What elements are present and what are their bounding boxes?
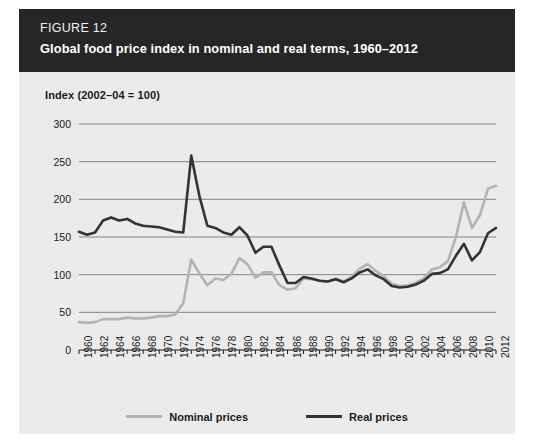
figure-number: FIGURE 12 bbox=[40, 20, 515, 37]
y-axis-tick-label: 100 bbox=[41, 269, 71, 281]
x-axis-tick-label: 2002 bbox=[420, 336, 431, 358]
legend-item: Nominal prices bbox=[126, 411, 248, 423]
x-axis-tick-label: 2012 bbox=[500, 336, 511, 358]
x-axis-tick-label: 2008 bbox=[468, 336, 479, 358]
x-axis-tick-label: 1972 bbox=[179, 336, 190, 358]
x-axis-tick-label: 1982 bbox=[259, 336, 270, 358]
chart-legend: Nominal pricesReal prices bbox=[19, 399, 515, 434]
x-axis-tick-label: 1974 bbox=[195, 336, 206, 358]
x-axis-tick-label: 1980 bbox=[243, 336, 254, 358]
series-line-nominal-prices bbox=[79, 186, 496, 323]
x-axis-tick-label: 1990 bbox=[324, 336, 335, 358]
x-axis-tick-label: 2006 bbox=[452, 336, 463, 358]
x-axis-tick-label: 1984 bbox=[275, 336, 286, 358]
legend-swatch bbox=[306, 415, 342, 419]
x-axis-tick-label: 1964 bbox=[115, 336, 126, 358]
y-axis-tick-label: 150 bbox=[41, 231, 71, 243]
legend-label: Real prices bbox=[349, 411, 408, 423]
legend-label: Nominal prices bbox=[169, 411, 248, 423]
x-axis-tick-label: 1996 bbox=[372, 336, 383, 358]
y-axis-tick-label: 200 bbox=[41, 193, 71, 205]
x-axis-tick-label: 1994 bbox=[356, 336, 367, 358]
x-axis-tick-label: 1992 bbox=[340, 336, 351, 358]
x-axis-tick-label: 1978 bbox=[227, 336, 238, 358]
chart-body: Index (2002–04 = 100) 050100150200250300… bbox=[19, 72, 515, 434]
legend-swatch bbox=[126, 415, 162, 419]
figure-header: FIGURE 12 Global food price index in nom… bbox=[19, 9, 515, 72]
x-axis-tick-label: 2000 bbox=[404, 336, 415, 358]
x-axis-tick-label: 1960 bbox=[83, 336, 94, 358]
y-axis-tick-label: 50 bbox=[41, 306, 71, 318]
x-axis-tick-label: 2010 bbox=[484, 336, 495, 358]
legend-item: Real prices bbox=[306, 411, 408, 423]
line-chart-svg bbox=[19, 72, 515, 434]
x-axis-tick-label: 1970 bbox=[163, 336, 174, 358]
y-axis-tick-label: 300 bbox=[41, 118, 71, 130]
x-axis-tick-label: 1988 bbox=[308, 336, 319, 358]
x-axis-tick-label: 1966 bbox=[131, 336, 142, 358]
x-axis-tick-label: 1976 bbox=[211, 336, 222, 358]
x-axis-tick-label: 1968 bbox=[147, 336, 158, 358]
y-axis-tick-label: 0 bbox=[41, 344, 71, 356]
figure-card: FIGURE 12 Global food price index in nom… bbox=[19, 9, 515, 434]
x-axis-tick-label: 1962 bbox=[99, 336, 110, 358]
y-axis-tick-label: 250 bbox=[41, 156, 71, 168]
x-axis-tick-label: 2004 bbox=[436, 336, 447, 358]
x-axis-tick-label: 1998 bbox=[388, 336, 399, 358]
x-axis-tick-label: 1986 bbox=[292, 336, 303, 358]
figure-title: Global food price index in nominal and r… bbox=[40, 39, 515, 59]
plot-area: 0501001502002503001960196219641966196819… bbox=[19, 72, 515, 434]
